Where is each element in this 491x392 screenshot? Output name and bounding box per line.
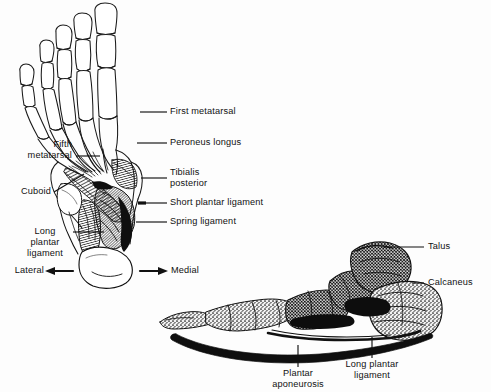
label-peroneus-longus: Peroneus longus [170, 137, 241, 148]
label-lateral: Lateral [0, 265, 44, 276]
label-fifth-metatarsal-line1: Fifth [0, 139, 72, 150]
medial-arrow-head [158, 267, 168, 275]
label-tibialis-posterior-line1: Tibialis [170, 167, 199, 178]
label-talus: Talus [428, 241, 450, 252]
label-long-plantar-ligament-lateral-line2: ligament [333, 370, 411, 381]
label-cuboid: Cuboid [0, 186, 51, 197]
label-long-plantar-ligament-plantar-line2: plantar [20, 237, 70, 248]
label-first-metatarsal: First metatarsal [170, 106, 236, 117]
lateral-view-drawing [160, 242, 442, 363]
foot-anatomy-figure: First metatarsal Peroneus longus Tibiali… [0, 0, 491, 392]
calcaneus-heel-plantar [79, 247, 132, 288]
anatomical-illustration [0, 0, 491, 392]
label-long-plantar-ligament-plantar-line3: ligament [20, 248, 70, 259]
label-long-plantar-ligament-lateral-line1: Long plantar [333, 359, 411, 370]
label-tibialis-posterior-line2: posterior [170, 178, 207, 189]
label-plantar-aponeurosis-line2: aponeurosis [258, 379, 338, 390]
plantar-view-drawing [20, 3, 442, 367]
label-plantar-aponeurosis-line1: Plantar [258, 368, 338, 379]
label-calcaneus: Calcaneus [428, 277, 473, 288]
label-long-plantar-ligament-plantar-line1: Long [20, 226, 70, 237]
label-fifth-metatarsal-line2: metatarsal [0, 150, 72, 161]
label-medial: Medial [171, 265, 199, 276]
label-short-plantar-ligament: Short plantar ligament [170, 197, 263, 208]
hallux-bone-group [95, 3, 118, 152]
lateral-arrow-head [45, 267, 55, 275]
label-spring-ligament: Spring ligament [170, 216, 236, 227]
tibialis-posterior-tendon [112, 159, 137, 188]
